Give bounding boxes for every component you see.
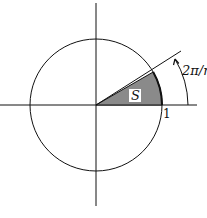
radius-label: 1 [163,107,171,121]
sector-label: S [131,88,140,103]
unit-circle-diagram: S 2π/n 1 [0,0,207,218]
angle-label: 2π/n [181,63,207,78]
